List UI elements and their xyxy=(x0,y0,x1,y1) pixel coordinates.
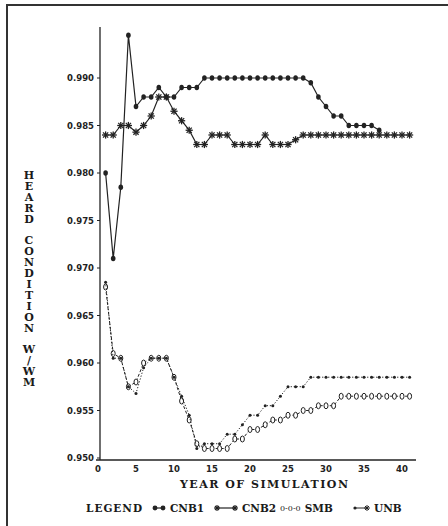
small-star-marker-icon xyxy=(352,503,370,513)
y-tick-label: 0.960 xyxy=(67,358,94,368)
x-tick-label: 40 xyxy=(396,464,408,474)
y-tick-label: 0.985 xyxy=(67,121,94,131)
y-tick-label: 0.980 xyxy=(67,168,94,178)
x-tick-label: 10 xyxy=(168,464,180,474)
filled-dot-marker-icon xyxy=(152,503,166,513)
x-tick-label: 15 xyxy=(206,464,218,474)
open-circle-marker-icon: 0-0-0 xyxy=(280,504,301,513)
x-axis-label: YEAR OF SIMULATION xyxy=(180,478,349,491)
legend: LEGEND CNB1 CNB2 0-0-0 SMB UNB xyxy=(0,502,432,517)
legend-label-smb: SMB xyxy=(305,502,333,514)
x-tick-label: 30 xyxy=(320,464,332,474)
legend-item-cnb1: CNB1 xyxy=(152,502,204,514)
x-tick-label: 0 xyxy=(95,464,101,474)
y-axis-label-letter: M xyxy=(22,377,36,388)
series-unb xyxy=(104,281,411,450)
x-tick-label: 35 xyxy=(358,464,370,474)
y-tick-label: 0.955 xyxy=(67,406,94,416)
series-smb xyxy=(104,284,412,452)
y-tick-label: 0.950 xyxy=(67,453,94,463)
y-tick-label: 0.970 xyxy=(67,263,94,273)
y-tick-label: 0.990 xyxy=(67,73,94,83)
star-marker-icon xyxy=(214,503,238,513)
series-cnb2 xyxy=(102,93,413,148)
legend-item-smb: 0-0-0 SMB xyxy=(280,502,333,514)
x-tick-label: 5 xyxy=(133,464,139,474)
legend-title: LEGEND xyxy=(86,502,143,514)
legend-label-cnb1: CNB1 xyxy=(170,502,204,514)
y-tick-label: 0.965 xyxy=(67,311,94,321)
x-tick-label: 25 xyxy=(282,464,294,474)
y-axis-label: HEARD CONDITION W/WM xyxy=(22,170,36,388)
legend-item-unb: UNB xyxy=(352,502,402,514)
legend-label-cnb2: CNB2 xyxy=(242,502,276,514)
y-tick-label: 0.975 xyxy=(67,216,94,226)
x-tick-label: 20 xyxy=(244,464,256,474)
legend-label-unb: UNB xyxy=(374,502,402,514)
legend-item-cnb2: CNB2 xyxy=(214,502,276,514)
